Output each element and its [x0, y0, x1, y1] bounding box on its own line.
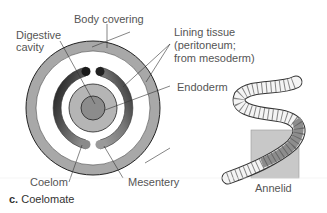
label-lining-1: Lining tissue: [174, 26, 235, 38]
label-coelom: Coelom: [30, 176, 68, 188]
label-mesentery: Mesentery: [128, 176, 179, 188]
label-digestive-cavity-2: cavity: [16, 41, 44, 53]
figure-caption: c. Coelomate: [9, 193, 74, 205]
label-body-covering: Body covering: [74, 13, 144, 25]
caption-text: Coelomate: [21, 193, 74, 205]
label-annelid: Annelid: [255, 182, 292, 194]
label-endoderm: Endoderm: [177, 81, 228, 93]
label-lining-2: (peritoneum;: [174, 39, 236, 51]
label-lining-3: from mesoderm): [174, 52, 255, 64]
caption-letter: c.: [9, 193, 18, 205]
label-digestive-cavity-1: Digestive: [16, 29, 61, 41]
